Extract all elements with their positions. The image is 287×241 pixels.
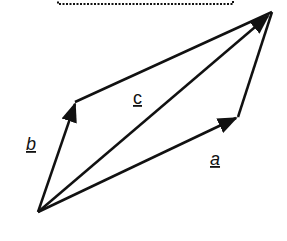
label-b: b	[26, 134, 36, 154]
dotted-box	[58, 0, 233, 4]
label-a: a	[210, 149, 220, 169]
vector-a-arrow	[38, 118, 236, 212]
side-top	[75, 12, 272, 102]
label-c: c	[133, 88, 142, 108]
vector-diagram: c b a	[0, 0, 287, 241]
